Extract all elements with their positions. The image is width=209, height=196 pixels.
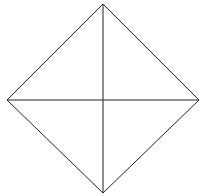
diamond-diagram xyxy=(0,0,209,196)
